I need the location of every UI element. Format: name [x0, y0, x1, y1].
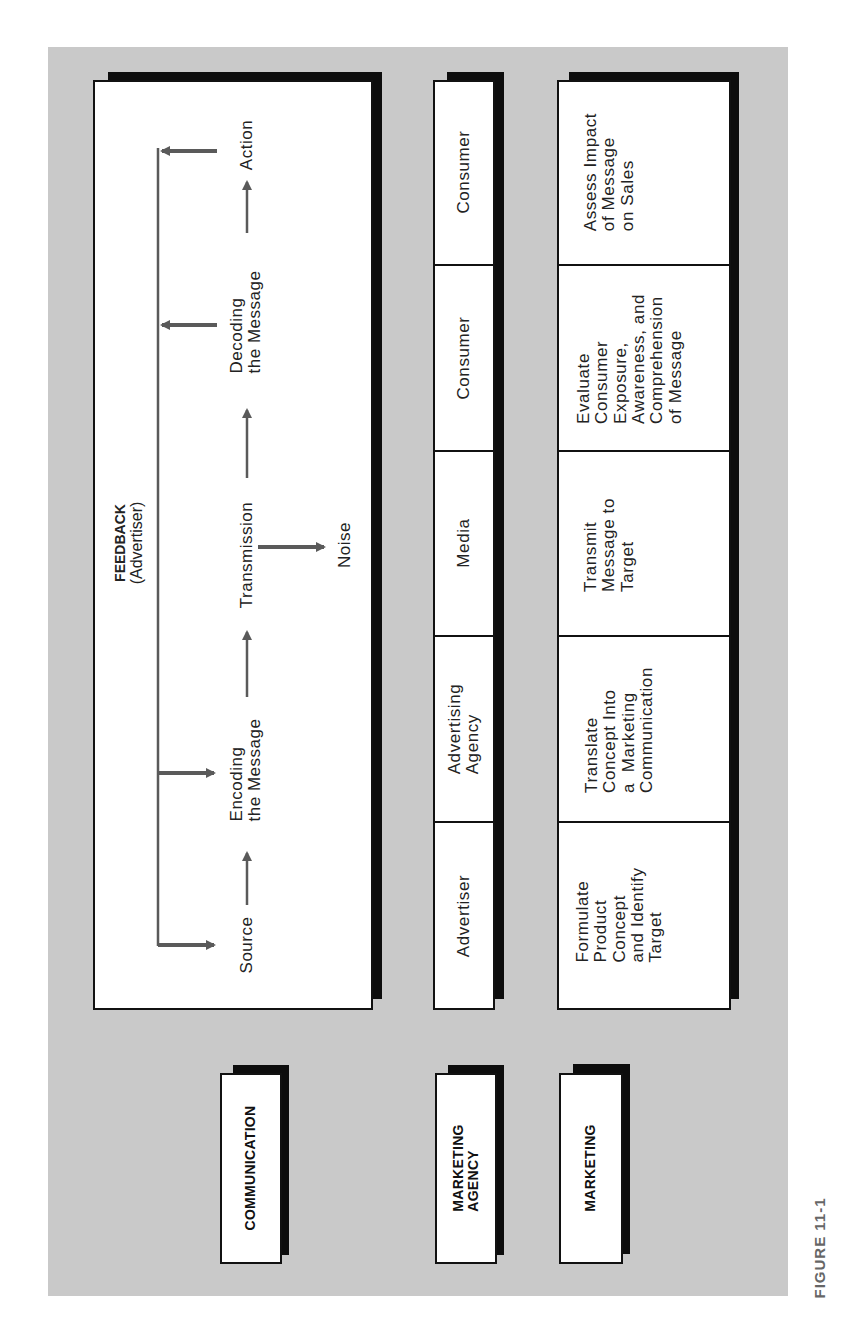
- communication-label: COMMUNICATION: [243, 1106, 258, 1231]
- feedback-subtitle: (Advertiser): [128, 502, 145, 585]
- marketing-cell-evaluate: Evaluate Consumer Exposure, Awareness, a…: [575, 294, 685, 424]
- agency-cell-media: Media: [455, 518, 473, 567]
- flow-transmission: Transmission: [238, 502, 256, 608]
- cell-divider: [433, 635, 495, 637]
- flow-encoding: Encoding the Message: [228, 719, 265, 822]
- agency-cell-advertiser: Advertiser: [455, 875, 473, 958]
- marketing-cell-assess: Assess Impact of Message on Sales: [582, 113, 637, 231]
- marketing-agency-label: MARKETING AGENCY: [451, 1124, 481, 1211]
- marketing-cell-transmit: Transmit Message to Target: [582, 498, 637, 592]
- marketing-cell-formulate: Formulate Product Concept and Identify T…: [574, 867, 666, 962]
- flow-source: Source: [238, 917, 256, 974]
- cell-divider: [433, 450, 495, 452]
- agency-cell-advertising-agency: Advertising Agency: [446, 684, 483, 775]
- feedback-label: FEEDBACK (Advertiser): [111, 502, 146, 585]
- flow-decoding: Decoding the Message: [228, 271, 265, 374]
- cell-divider: [557, 821, 731, 823]
- marketing-label: MARKETING: [583, 1124, 598, 1211]
- feedback-title: FEEDBACK: [112, 504, 128, 582]
- cell-divider: [557, 635, 731, 637]
- flow-noise: Noise: [336, 522, 354, 568]
- cell-divider: [433, 821, 495, 823]
- agency-cell-consumer-2: Consumer: [455, 130, 473, 213]
- cell-divider: [433, 264, 495, 266]
- agency-cell-consumer-1: Consumer: [455, 316, 473, 399]
- figure-caption: FIGURE 11-1: [812, 1197, 828, 1298]
- flow-action: Action: [238, 120, 256, 170]
- cell-divider: [557, 264, 731, 266]
- cell-divider: [557, 450, 731, 452]
- marketing-cell-translate: Translate Concept Into a Marketing Commu…: [583, 667, 656, 793]
